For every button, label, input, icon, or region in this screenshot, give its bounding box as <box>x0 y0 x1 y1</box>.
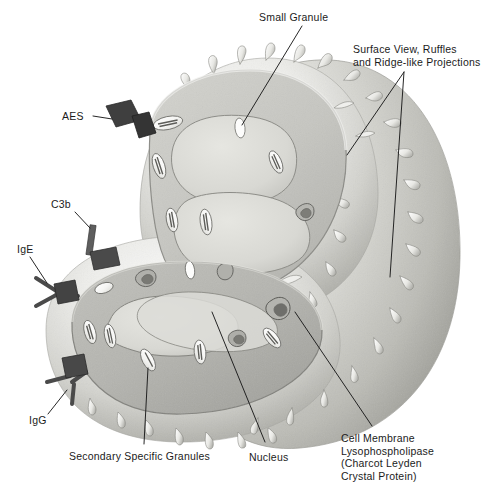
label-surface-view-ruffles: Surface View, Ruffles and Ridge-like Pro… <box>353 43 480 68</box>
leader-igg <box>48 390 67 414</box>
label-secondary-specific-granules: Secondary Specific Granules <box>69 450 210 463</box>
label-c3b: C3b <box>51 198 71 211</box>
label-igg: IgG <box>29 414 47 427</box>
eosinophil-diagram: Small Granule Surface View, Ruffles and … <box>0 0 485 498</box>
receptor-aes <box>106 100 156 138</box>
leader-c3b <box>75 212 90 228</box>
receptor-igg-anchor <box>62 354 88 378</box>
leader-aes <box>93 116 112 119</box>
receptor-ige-anchor <box>54 280 79 304</box>
label-ige: IgE <box>17 243 33 256</box>
label-aes: AES <box>62 110 84 123</box>
label-small-granule: Small Granule <box>259 11 328 24</box>
diagram-canvas <box>0 0 485 498</box>
label-nucleus: Nucleus <box>249 451 288 464</box>
label-cell-membrane-lysophospholipase: Cell Membrane Lysophospholipase (Charcot… <box>341 432 434 482</box>
